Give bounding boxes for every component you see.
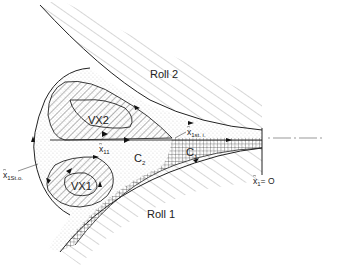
- roll2-label: Roll 2: [150, 68, 178, 80]
- vx1-label: VX1: [71, 180, 92, 192]
- vx2-label: VX2: [88, 114, 109, 126]
- x1st-o-leader: [18, 164, 38, 171]
- roll1-label: Roll 1: [147, 208, 175, 220]
- x1-zero-label: x1= O: [253, 176, 275, 187]
- x1st-o-label: x1St.o.: [3, 170, 23, 181]
- roll-coating-flow-diagram: Roll 2 Roll 1 VX2 VX1 C2 C1 x11 x1st. i.…: [0, 0, 341, 268]
